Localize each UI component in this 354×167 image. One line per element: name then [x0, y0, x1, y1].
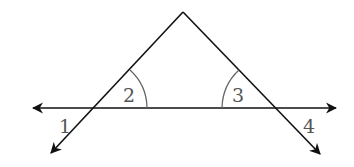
right-side-line: [183, 12, 320, 154]
triangle-angle-diagram: 1 2 3 4: [0, 0, 354, 167]
angle-label-4: 4: [303, 115, 315, 137]
angle-label-3: 3: [232, 84, 244, 106]
angle-label-1: 1: [59, 115, 71, 137]
angle-label-2: 2: [123, 84, 135, 106]
